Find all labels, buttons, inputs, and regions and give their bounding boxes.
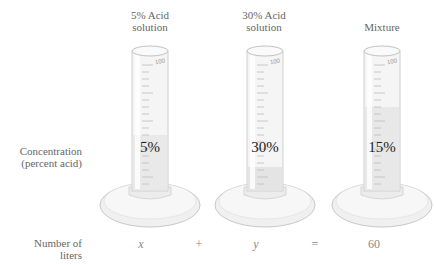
title-30pct-line2: solution xyxy=(219,21,309,33)
concentration-label-line1: Concentration xyxy=(0,145,82,157)
liters-label-line1: Number of xyxy=(0,237,82,249)
concentration-5pct: 5% xyxy=(125,139,175,156)
concentration-row-label: Concentration (percent acid) xyxy=(0,145,82,169)
title-mixture: Mixture xyxy=(337,21,427,33)
title-5pct-line2: solution xyxy=(105,21,195,33)
liters-label-line2: liters xyxy=(0,249,82,261)
title-5pct-line1: 5% Acid xyxy=(105,9,195,21)
title-30pct-solution: 30% Acid solution xyxy=(219,9,309,33)
liters-row-label: Number of liters xyxy=(0,237,82,261)
plus-operator: + xyxy=(179,237,219,252)
equals-operator: = xyxy=(295,237,335,252)
concentration-label-line2: (percent acid) xyxy=(0,157,82,169)
title-mixture-line1: Mixture xyxy=(337,21,427,33)
concentration-mixture: 15% xyxy=(357,139,407,156)
title-30pct-line1: 30% Acid xyxy=(219,9,309,21)
liters-y: y xyxy=(236,237,276,252)
liters-total: 60 xyxy=(354,237,394,252)
title-5pct-solution: 5% Acid solution xyxy=(105,9,195,33)
liters-x: x xyxy=(121,237,161,252)
concentration-30pct: 30% xyxy=(240,139,290,156)
